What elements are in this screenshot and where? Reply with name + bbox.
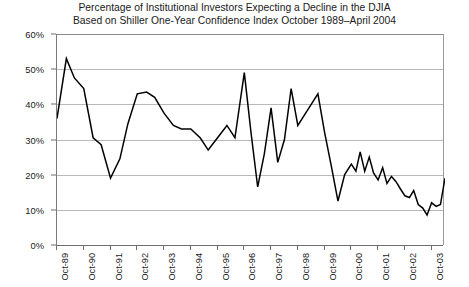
x-tick-label-Oct-96: Oct-96: [247, 253, 257, 281]
y-tick-label-60: 60%: [25, 29, 44, 40]
chart-figure: Percentage of Institutional Investors Ex…: [0, 0, 469, 287]
x-tick-mark-Oct-96: [243, 245, 244, 250]
x-tick-mark-Oct-03: [431, 245, 432, 250]
x-tick-mark-Oct-99: [324, 245, 325, 250]
y-tick-label-0: 0%: [30, 240, 44, 251]
x-tick-label-Oct-98: Oct-98: [301, 253, 311, 281]
chart-title: Percentage of Institutional Investors Ex…: [0, 2, 469, 15]
x-tick-mark-Oct-90: [83, 245, 84, 250]
chart-title-block: Percentage of Institutional Investors Ex…: [0, 2, 469, 27]
x-tick-label-Oct-94: Oct-94: [194, 253, 204, 281]
x-tick-mark-Oct-93: [163, 245, 164, 250]
y-tick-label-10: 10%: [25, 204, 44, 215]
x-tick-label-Oct-02: Oct-02: [408, 253, 418, 281]
x-axis: Oct-89Oct-90Oct-91Oct-92Oct-93Oct-94Oct-…: [56, 245, 445, 287]
x-tick-label-Oct-92: Oct-92: [140, 253, 150, 281]
x-tick-mark-Oct-97: [270, 245, 271, 250]
x-tick-mark-Oct-95: [217, 245, 218, 250]
y-tick-label-30: 30%: [25, 134, 44, 145]
x-tick-label-Oct-01: Oct-01: [381, 253, 391, 281]
x-tick-mark-Oct-94: [190, 245, 191, 250]
x-tick-label-Oct-97: Oct-97: [274, 253, 284, 281]
x-tick-label-Oct-91: Oct-91: [114, 253, 124, 281]
x-tick-mark-Oct-02: [404, 245, 405, 250]
y-tick-label-20: 20%: [25, 169, 44, 180]
data-series-line: [57, 34, 445, 245]
y-axis: 0%10%20%30%40%50%60%: [0, 34, 56, 245]
chart-subtitle: Based on Shiller One-Year Confidence Ind…: [0, 15, 469, 28]
x-tick-mark-Oct-98: [297, 245, 298, 250]
x-tick-mark-Oct-89: [56, 245, 57, 250]
x-tick-label-Oct-90: Oct-90: [87, 253, 97, 281]
x-tick-mark-Oct-91: [110, 245, 111, 250]
series-polyline: [57, 59, 445, 215]
x-tick-label-Oct-03: Oct-03: [435, 253, 445, 281]
x-tick-mark-Oct-00: [350, 245, 351, 250]
x-tick-mark-Oct-92: [136, 245, 137, 250]
x-tick-mark-Oct-01: [377, 245, 378, 250]
plot-area: [56, 34, 444, 245]
x-tick-label-Oct-89: Oct-89: [60, 253, 70, 281]
x-tick-label-Oct-95: Oct-95: [221, 253, 231, 281]
y-tick-label-40: 40%: [25, 99, 44, 110]
y-tick-label-50: 50%: [25, 64, 44, 75]
x-tick-label-Oct-99: Oct-99: [328, 253, 338, 281]
x-tick-label-Oct-00: Oct-00: [354, 253, 364, 281]
x-tick-label-Oct-93: Oct-93: [167, 253, 177, 281]
